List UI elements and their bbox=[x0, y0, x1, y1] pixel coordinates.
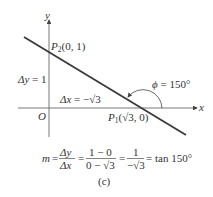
p2-label: P2(0, 1) bbox=[50, 40, 86, 54]
delta-x-label: Δx = −√3 bbox=[59, 93, 101, 105]
svg-text:0 − √3: 0 − √3 bbox=[86, 159, 115, 171]
svg-text:m: m bbox=[42, 152, 50, 164]
svg-text:=: = bbox=[119, 152, 125, 164]
svg-text:1 − 0: 1 − 0 bbox=[89, 146, 112, 158]
svg-text:1: 1 bbox=[133, 146, 139, 158]
slope-formula: m = Δy Δx = 1 − 0 0 − √3 = 1 −√3 = tan 1… bbox=[42, 146, 192, 171]
svg-text:Δy: Δy bbox=[59, 146, 71, 158]
svg-text:= tan 150°: = tan 150° bbox=[146, 152, 192, 164]
origin-label: O bbox=[38, 110, 46, 122]
y-axis-label: y bbox=[44, 9, 50, 21]
x-axis-label: x bbox=[198, 101, 204, 113]
figure-caption: (c) bbox=[98, 175, 111, 188]
angle-arc bbox=[128, 90, 162, 108]
angle-label: ϕ = 150° bbox=[152, 78, 190, 90]
svg-text:−√3: −√3 bbox=[127, 159, 145, 171]
delta-y-label: Δy = 1 bbox=[17, 73, 47, 85]
p1-label: P1(√3, 0) bbox=[107, 111, 149, 125]
svg-text:=: = bbox=[52, 152, 58, 164]
slope-diagram: x y O P2(0, 1) P1(√3, 0) Δy = 1 Δx = −√3… bbox=[0, 0, 213, 197]
svg-text:Δx: Δx bbox=[59, 159, 71, 171]
svg-text:=: = bbox=[78, 152, 84, 164]
